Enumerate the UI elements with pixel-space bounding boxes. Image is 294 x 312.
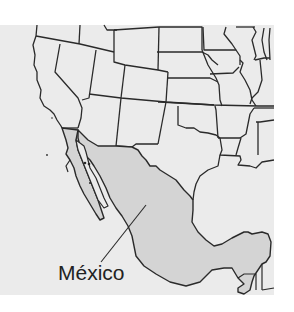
- map: México: [0, 0, 294, 312]
- island-dot: [46, 154, 48, 156]
- island-dot: [51, 117, 53, 119]
- mexico-label: México: [58, 261, 125, 285]
- map-svg: [0, 0, 294, 312]
